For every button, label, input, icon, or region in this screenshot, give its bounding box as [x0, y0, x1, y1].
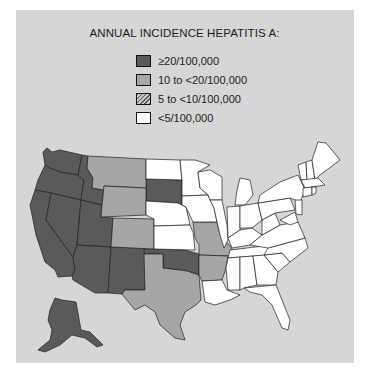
- state-ks: [154, 225, 195, 250]
- state-wy: [101, 186, 146, 217]
- state-ar: [199, 255, 228, 281]
- state-mt: [87, 156, 146, 190]
- state-nj: [295, 200, 302, 215]
- state-me: [312, 142, 340, 180]
- state-ms: [226, 257, 240, 290]
- state-fl: [244, 285, 290, 330]
- us-map: [0, 0, 369, 380]
- state-co: [111, 218, 154, 249]
- state-ct: [303, 187, 312, 197]
- state-ri: [312, 187, 316, 195]
- state-az: [72, 245, 111, 293]
- state-ny: [258, 175, 305, 203]
- state-nd: [146, 159, 182, 180]
- state-de-md: [280, 212, 298, 225]
- state-ak: [38, 298, 103, 352]
- state-mi: [235, 178, 253, 205]
- state-ma: [301, 178, 325, 188]
- state-nm: [108, 247, 146, 294]
